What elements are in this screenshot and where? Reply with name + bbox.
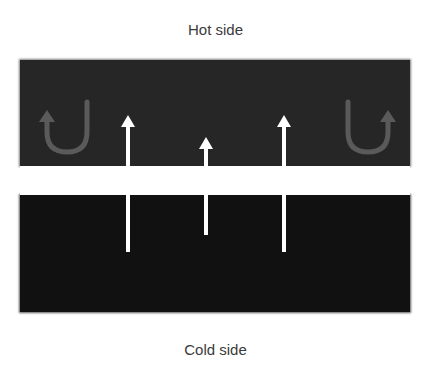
right-return-arrow-icon: [348, 102, 396, 152]
left-return-arrow-icon: [39, 102, 87, 152]
gap-divider: [20, 166, 410, 195]
cold-side-label: Cold side: [0, 341, 431, 358]
flow-arrows: [0, 0, 431, 383]
